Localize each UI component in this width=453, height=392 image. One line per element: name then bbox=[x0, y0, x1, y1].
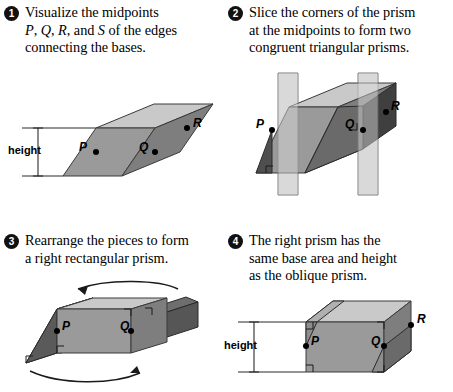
label-q-1: Q bbox=[139, 140, 148, 154]
label-q-2: Q bbox=[345, 117, 354, 131]
step-3-bullet: 3 bbox=[4, 234, 19, 249]
step-2-line-3: congruent triangular prisms. bbox=[249, 39, 415, 57]
rotation-arc-bottom bbox=[30, 371, 140, 382]
prism3-body bbox=[57, 298, 167, 353]
label-p-4: P bbox=[311, 334, 319, 348]
midpoint-dot-r-2 bbox=[383, 109, 389, 115]
label-q-4: Q bbox=[371, 334, 380, 348]
height-label-1: height bbox=[8, 144, 41, 156]
step-3-text: Rearrange the pieces to forma right rect… bbox=[25, 232, 189, 267]
cutting-plane-right-front bbox=[358, 73, 378, 195]
label-r-2: R bbox=[391, 99, 400, 113]
step-4-bullet: 4 bbox=[228, 234, 243, 249]
midpoint-dot-p bbox=[93, 149, 99, 155]
step-1-header: 1 Visualize the midpointsP, Q, R, and S … bbox=[4, 4, 219, 57]
step-3-line-1: Rearrange the pieces to form bbox=[25, 232, 189, 250]
label-r-4: R bbox=[417, 312, 426, 326]
step-3-line-2: a right rectangular prism. bbox=[25, 250, 189, 268]
step-2-header: 2 Slice the corners of the prismat the m… bbox=[228, 4, 448, 57]
step-4-line-1: The right prism has the bbox=[249, 232, 397, 250]
diagram-4-right-prism: height P Q R bbox=[226, 280, 453, 392]
figure-root: 1 Visualize the midpointsP, Q, R, and S … bbox=[0, 0, 453, 392]
diagram-1-oblique-prism: height P Q R bbox=[0, 95, 226, 215]
step-4-header: 4 The right prism has thesame base area … bbox=[228, 232, 443, 285]
midpoint-dot-q bbox=[152, 149, 158, 155]
step-4-line-2: same base area and height bbox=[249, 250, 397, 268]
rotation-arrow-back bbox=[78, 281, 178, 289]
label-p-2: P bbox=[256, 117, 264, 131]
rotation-arc-top bbox=[78, 281, 178, 289]
wedge-left-front bbox=[256, 130, 272, 173]
step-2-text: Slice the corners of the prismat the mid… bbox=[249, 4, 415, 57]
midpoint-dot-q-2 bbox=[360, 127, 366, 133]
step-2-line-1: Slice the corners of the prism bbox=[249, 4, 415, 22]
midpoint-dot-p-3 bbox=[54, 328, 60, 334]
height-label-4: height bbox=[224, 339, 257, 351]
step-4-text: The right prism has thesame base area an… bbox=[249, 232, 397, 285]
step-1-line-2: P, Q, R, and S of the edges bbox=[25, 22, 177, 40]
label-q-3: Q bbox=[120, 319, 129, 333]
step-3-header: 3 Rearrange the pieces to forma right re… bbox=[4, 232, 219, 267]
diagram-2-sliced-prism: P Q R bbox=[226, 60, 453, 220]
label-p-3: P bbox=[62, 319, 70, 333]
midpoint-dot-q-4 bbox=[381, 343, 387, 349]
label-p-1: P bbox=[79, 140, 87, 154]
arrowhead-right bbox=[130, 366, 140, 373]
step-1-text: Visualize the midpointsP, Q, R, and S of… bbox=[25, 4, 177, 57]
step-1-line-3: connecting the bases. bbox=[25, 39, 177, 57]
midpoint-dot-r-4 bbox=[408, 322, 414, 328]
label-r-1: R bbox=[193, 116, 202, 130]
cutting-plane-left-front bbox=[278, 73, 298, 195]
step-1-bullet: 1 bbox=[4, 6, 19, 21]
diagram-3-rearranged-prism: P Q bbox=[0, 275, 226, 392]
midpoint-dot-p-4 bbox=[303, 343, 309, 349]
rotation-arrow-front bbox=[30, 371, 140, 382]
step-1-line-1: Visualize the midpoints bbox=[25, 4, 177, 22]
step-2-bullet: 2 bbox=[228, 6, 243, 21]
midpoint-dot-r bbox=[184, 125, 190, 131]
step-2-line-2: at the midpoints to form two bbox=[249, 22, 415, 40]
midpoint-dot-p-2 bbox=[269, 127, 275, 133]
